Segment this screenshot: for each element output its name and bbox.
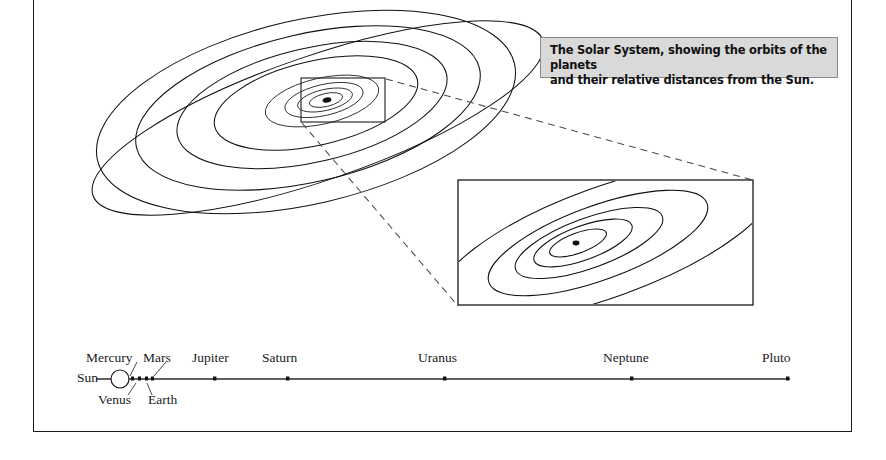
solar-system-figure: The Solar System, showing the orbits of … <box>0 0 886 460</box>
dot-mars <box>151 377 154 381</box>
scale-label-sun: Sun <box>77 370 98 386</box>
scale-label-jupiter: Jupiter <box>192 350 229 366</box>
caption-line-2: and their relative distances from the Su… <box>550 73 829 88</box>
scale-label-uranus: Uranus <box>418 350 457 366</box>
distance-scale-bar <box>96 362 790 395</box>
dot-saturn <box>286 377 289 381</box>
scale-label-mercury: Mercury <box>86 350 132 366</box>
inset-sun-marker <box>573 241 580 246</box>
caption-box: The Solar System, showing the orbits of … <box>540 37 838 78</box>
caption-line-1: The Solar System, showing the orbits of … <box>550 43 829 73</box>
dot-uranus <box>443 377 446 381</box>
dot-pluto <box>786 377 789 381</box>
callout-line-top <box>386 79 756 181</box>
scale-label-mars: Mars <box>143 350 171 366</box>
orbit-jupiter <box>205 39 427 168</box>
dot-neptune <box>630 377 633 381</box>
scale-label-saturn: Saturn <box>262 350 297 366</box>
orbit-mars <box>260 66 383 137</box>
scale-label-venus: Venus <box>98 392 131 408</box>
orbit-saturn <box>165 18 460 191</box>
sun-marker-main <box>322 96 332 103</box>
inset-box <box>458 180 753 305</box>
scale-label-neptune: Neptune <box>603 350 649 366</box>
dot-venus <box>138 377 141 381</box>
dot-jupiter <box>213 377 216 381</box>
callout-line-bottom <box>302 123 458 306</box>
sun-circle-marker <box>111 370 129 388</box>
dot-mercury <box>131 377 134 381</box>
dot-earth <box>145 377 148 381</box>
scale-label-pluto: Pluto <box>762 350 791 366</box>
scale-label-earth: Earth <box>148 392 177 408</box>
callout-rectangle <box>301 78 385 122</box>
